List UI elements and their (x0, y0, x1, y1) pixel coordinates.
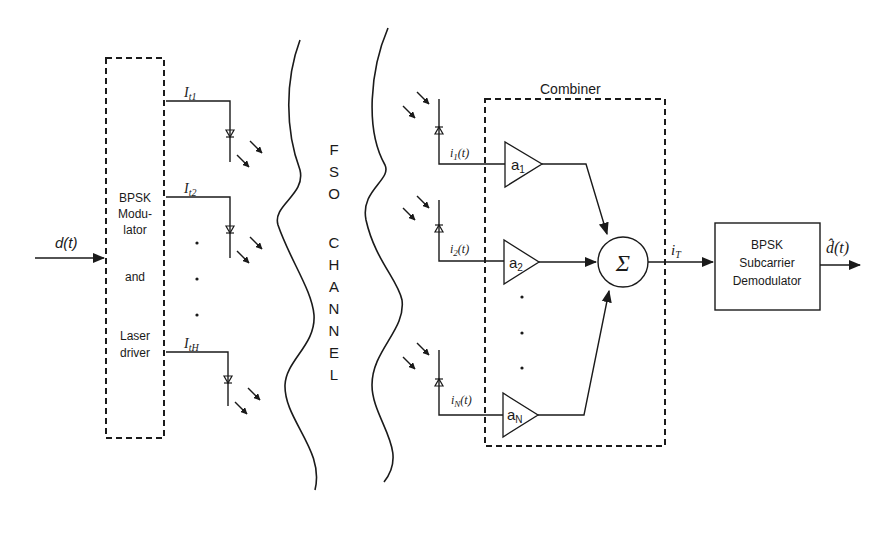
light-ray-icon (235, 402, 247, 414)
receiver-wire-1 (439, 99, 505, 164)
laser-wire-2 (166, 197, 230, 258)
receiver-current-label-1: i1(t) (450, 146, 469, 162)
input-signal-label: d(t) (55, 234, 78, 251)
gain-to-sum-wire-n (538, 291, 609, 415)
channel-letter: F (329, 141, 338, 158)
laser-wire-h (166, 352, 228, 406)
receiver-wire-2 (439, 200, 505, 261)
channel-letter: E (329, 344, 339, 361)
incoming-light-icon (403, 106, 415, 118)
light-ray-icon (250, 237, 262, 249)
sigma-icon: Σ (615, 250, 630, 276)
receiver-branch-n: iN(t) aN (403, 291, 609, 437)
transmitter-line-3: lator (123, 223, 146, 237)
gain-to-sum-wire-1 (542, 164, 607, 234)
channel-letter: N (329, 300, 340, 317)
transmitter-line-1: BPSK (119, 191, 151, 205)
transmitter-line-5: Laser (120, 329, 150, 343)
laser-current-label-1: It1 (183, 85, 196, 102)
demodulator-line-1: BPSK (751, 238, 783, 252)
laser-branch-2: It2 (166, 181, 262, 263)
laser-current-label-h: ItH (183, 336, 199, 353)
receiver-branch-1: i1(t) a1 (403, 92, 607, 234)
channel-letter: L (330, 366, 338, 383)
incoming-light-icon (403, 357, 415, 369)
transmitter-line-2: Modu- (118, 207, 152, 221)
laser-branch-h: ItH (166, 336, 260, 414)
channel-letter: O (328, 185, 340, 202)
channel-letter: C (329, 234, 340, 251)
incoming-light-icon (417, 92, 429, 104)
light-ray-icon (248, 388, 260, 400)
channel-left-boundary (277, 40, 316, 490)
receiver-current-label-n: iN(t) (451, 393, 472, 409)
channel-letter: A (329, 278, 339, 295)
light-ray-icon (250, 141, 262, 153)
transmitter-line-6: driver (120, 346, 150, 360)
incoming-light-icon (417, 196, 429, 208)
output-signal-label: d̂(t) (826, 238, 849, 257)
laser-wire-1 (166, 101, 230, 162)
incoming-light-icon (403, 208, 415, 220)
laser-current-label-2: It2 (183, 181, 196, 198)
channel-letter: S (329, 163, 339, 180)
incoming-light-icon (417, 343, 429, 355)
transmitter-line-4: and (125, 270, 145, 284)
channel-right-boundary (365, 28, 402, 482)
total-current-label: iT (671, 242, 682, 260)
ellipsis-transmitters (195, 241, 198, 316)
light-ray-icon (237, 251, 249, 263)
receiver-branch-2: i2(t) a2 (403, 196, 596, 284)
transmitter-block: BPSK Modu- lator and Laser driver (106, 58, 164, 438)
demodulator-line-3: Demodulator (733, 274, 802, 288)
demodulator-block: BPSK Subcarrier Demodulator d̂(t) (715, 223, 860, 310)
channel-letter: H (329, 256, 340, 273)
laser-branch-1: It1 (166, 85, 262, 167)
combiner-title: Combiner (540, 81, 601, 97)
receiver-current-label-2: i2(t) (450, 242, 469, 258)
transmitter-dashed-box (106, 58, 164, 438)
input-signal: d(t) (35, 234, 104, 258)
demodulator-line-2: Subcarrier (739, 256, 794, 270)
light-ray-icon (237, 155, 249, 167)
fso-channel: F S O C H A N N E L (277, 28, 402, 490)
fso-bpsk-system-diagram: d(t) BPSK Modu- lator and Laser driver I… (0, 0, 888, 544)
channel-letter: N (329, 322, 340, 339)
ellipsis-amplifiers (520, 295, 523, 369)
